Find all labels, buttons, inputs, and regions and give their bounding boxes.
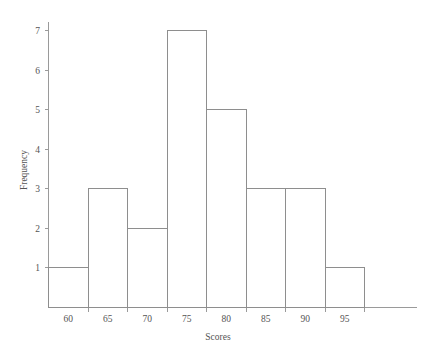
bar-90 xyxy=(286,189,326,308)
y-tick-label-2: 2 xyxy=(35,224,40,234)
bar-95 xyxy=(325,268,365,308)
y-tick-label-3: 3 xyxy=(35,184,40,194)
x-tick-label-75: 75 xyxy=(182,314,192,324)
x-tick-label-90: 90 xyxy=(301,314,311,324)
y-axis-title: Frequency xyxy=(19,150,29,190)
histogram-svg: 7 6 5 4 3 2 1 60 6 xyxy=(0,0,439,355)
x-tick-label-70: 70 xyxy=(143,314,153,324)
y-tick-label-6: 6 xyxy=(35,66,40,76)
x-tick-label-95: 95 xyxy=(340,314,350,324)
bar-80 xyxy=(207,110,247,308)
bar-85 xyxy=(246,189,286,308)
x-tick-label-65: 65 xyxy=(103,314,113,324)
y-tick-label-7: 7 xyxy=(35,26,40,36)
bar-75 xyxy=(167,31,207,308)
y-tick-label-1: 1 xyxy=(35,263,40,273)
histogram-chart: 7 6 5 4 3 2 1 60 6 xyxy=(0,0,439,355)
bar-70 xyxy=(128,228,168,308)
bar-65 xyxy=(88,189,128,308)
x-tick-label-60: 60 xyxy=(64,314,74,324)
y-tick-label-4: 4 xyxy=(35,145,40,155)
y-tick-label-5: 5 xyxy=(35,105,40,115)
x-axis-title: Scores xyxy=(205,332,231,342)
x-tick-label-80: 80 xyxy=(222,314,232,324)
x-tick-label-85: 85 xyxy=(261,314,271,324)
bar-60 xyxy=(49,268,89,308)
